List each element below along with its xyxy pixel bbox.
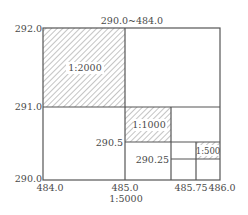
diagram-title: 290.0~484.0	[101, 15, 163, 26]
x-tick-484: 484.0	[36, 182, 63, 193]
sheet-label-1-2000: 1:2000	[68, 62, 101, 73]
sheet-label-1-500: 1:500	[196, 146, 221, 156]
x-tick-485: 485.0	[111, 182, 138, 193]
y-tick-291: 291.0	[15, 101, 42, 112]
y-tick-292: 292.0	[15, 23, 42, 34]
inner-label-290-5: 290.5	[96, 137, 123, 148]
x-tick-485-75: 485.75	[174, 182, 207, 193]
inner-label-290-25: 290.25	[136, 154, 169, 165]
sheet-label-1-1000: 1:1000	[132, 119, 165, 130]
map-sheet-division-diagram: 290.0~484.0 292.0 291.0 290.0 484.0 485.…	[0, 0, 248, 215]
x-tick-486: 486.0	[208, 182, 235, 193]
scale-label-1-5000: 1:5000	[109, 193, 142, 204]
